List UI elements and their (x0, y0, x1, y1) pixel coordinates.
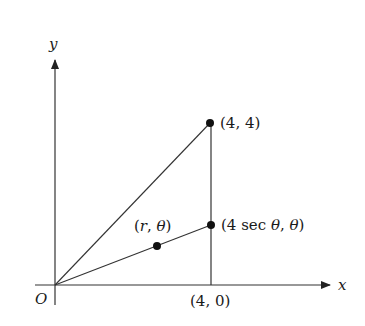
point-4-4 (206, 119, 214, 127)
label-r-theta: (r, θ) (134, 217, 171, 235)
label-4-0: (4, 0) (190, 292, 230, 310)
point-4sec-theta (207, 221, 215, 229)
point-r-theta (153, 242, 161, 250)
polar-diagram: y x O (4, 4) (4 sec θ, θ) (r, θ) (4, 0) (0, 0, 365, 326)
ray-theta (55, 225, 211, 285)
label-4-4: (4, 4) (220, 114, 260, 132)
ray-to-4-4 (55, 123, 210, 285)
origin-label: O (35, 290, 47, 308)
y-axis-label: y (48, 35, 58, 53)
label-4sec-theta: (4 sec θ, θ) (221, 216, 304, 234)
x-axis-label: x (338, 276, 347, 294)
